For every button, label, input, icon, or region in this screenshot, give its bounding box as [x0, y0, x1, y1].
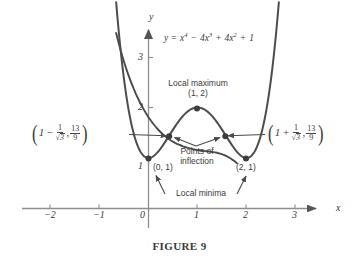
local-min-left-coords: (0, 1): [153, 163, 173, 172]
inflection-left-minus: −: [46, 127, 53, 139]
x-tick-2: 2: [243, 210, 248, 221]
inflection-right-x-fraction: 1 √3: [291, 124, 302, 142]
equation-term4: 1: [249, 33, 254, 43]
local-maximum-coords: (1, 2): [166, 89, 230, 98]
inflection-left-y-den: 9: [72, 134, 78, 142]
inflection-right-coords: (1+ 1 √3 , 13 9 ): [267, 124, 325, 142]
inflection-left-one: 1: [39, 127, 45, 139]
point-inflection-left: [166, 133, 172, 139]
equation-term3-exp: 2: [234, 31, 237, 38]
inflection-right-plus: +: [282, 127, 289, 139]
x-tick-minus1: −1: [93, 210, 105, 221]
equation-op2: +: [215, 33, 221, 43]
point-local-min-left: [146, 156, 152, 162]
inflection-left-y-fraction: 13 9: [70, 125, 80, 142]
inflection-left-coords: (1− 1 √3 , 13 9 ): [31, 124, 89, 142]
inflection-left-open-paren: (: [32, 125, 38, 142]
x-axis: [22, 205, 316, 209]
equation-op3: +: [240, 33, 246, 43]
inflection-right-one: 1: [275, 127, 281, 139]
inflection-left-radicand: 3: [60, 133, 65, 142]
equation-term1-exp: 4: [184, 31, 187, 38]
figure-caption: FIGURE 9: [0, 240, 359, 252]
local-minima-label: Local minima: [170, 189, 232, 198]
inflection-right-close-paren: ): [318, 125, 324, 142]
function-equation: y =x4−4x3+4x2+1: [164, 32, 254, 44]
inflection-left-x-fraction: 1 √3: [55, 124, 66, 142]
inflection-left-frac-num: 1: [57, 124, 63, 133]
x-axis-label: x: [336, 203, 340, 214]
local-min-right-coords: (2, 1): [236, 163, 256, 172]
y-axis-label: y: [149, 12, 153, 23]
inflection-left-frac-den: √3: [55, 133, 66, 142]
y-tick-2: 2: [138, 102, 143, 113]
inflection-left-comma: ,: [67, 127, 70, 139]
x-tick-1: 1: [194, 210, 199, 221]
x-tick-3: 3: [292, 210, 297, 221]
point-local-min-right: [243, 156, 249, 162]
y-tick-1: 1: [138, 161, 143, 172]
equation-op1: −: [190, 33, 196, 43]
equation-term2-exp: 3: [209, 31, 212, 38]
inflection-right-comma: ,: [303, 127, 306, 139]
leader-min-right: [237, 176, 246, 194]
inflection-right-radicand: 3: [296, 133, 301, 142]
inflection-right-frac-num: 1: [293, 124, 299, 133]
point-inflection-right: [222, 133, 228, 139]
inflection-right-open-paren: (: [268, 125, 274, 142]
inflection-left-close-paren: ): [82, 125, 88, 142]
point-local-max: [194, 106, 200, 112]
x-tick-0: 0: [140, 210, 145, 221]
equation-lhs: y =: [164, 33, 177, 43]
local-maximum-label: Local maximum: [166, 79, 230, 88]
points-of-inflection-line1: Points of: [172, 147, 222, 156]
leader-min-left: [156, 176, 165, 195]
y-tick-3: 3: [138, 52, 143, 63]
x-tick-minus2: −2: [44, 210, 56, 221]
points-of-inflection-line2: inflection: [172, 157, 222, 166]
inflection-right-y-fraction: 13 9: [306, 125, 316, 142]
figure-container: y x −2 −1 0 1 2 3 1 2 3 y =x4−4x3+4x2+1 …: [0, 0, 359, 266]
inflection-right-frac-den: √3: [291, 133, 302, 142]
inflection-right-y-den: 9: [308, 134, 314, 142]
